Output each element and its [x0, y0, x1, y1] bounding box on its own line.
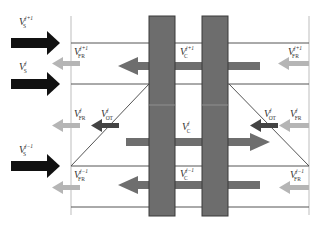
label-c-jp1: Vj+1C: [180, 45, 194, 59]
label-c-j: VjC: [182, 120, 191, 134]
label-fr-left-jm1: Vj−1FR: [74, 168, 88, 182]
center-arrow-bottom: [118, 176, 260, 194]
label-fr-right-jp1: Vj+1FR: [288, 45, 302, 59]
flow-diagram: Vj+1S VjS Vj−1S Vj+1FR VjFR Vj−1FR Vj+1F…: [0, 0, 329, 226]
return-arrow-right-jm1: [279, 181, 309, 194]
label-ot-left: VjOT: [101, 107, 114, 121]
column-left: [149, 16, 175, 216]
label-supply-j: VjS: [19, 60, 27, 74]
label-supply-jm1: Vj−1S: [19, 143, 33, 157]
supply-arrow-jm1: [11, 154, 60, 178]
supply-arrow-j: [11, 72, 60, 96]
supply-arrow-jp1: [11, 31, 60, 55]
column-right: [202, 16, 228, 216]
label-fr-right-jm1: Vj−1FR: [290, 168, 304, 182]
return-arrow-left-jm1: [52, 181, 80, 194]
return-arrow-left-jp1: [52, 57, 80, 70]
label-fr-left-jp1: Vj+1FR: [74, 45, 88, 59]
center-arrow-middle: [126, 133, 270, 151]
label-ot-right: VjOT: [264, 107, 277, 121]
label-supply-jp1: Vj+1S: [19, 15, 33, 29]
return-arrow-left-j: [52, 119, 80, 132]
label-c-jm1: Vj−1C: [180, 167, 194, 181]
label-fr-right-j: VjFR: [290, 107, 302, 121]
label-fr-left-j: VjFR: [74, 107, 86, 121]
center-arrow-top: [118, 57, 260, 75]
